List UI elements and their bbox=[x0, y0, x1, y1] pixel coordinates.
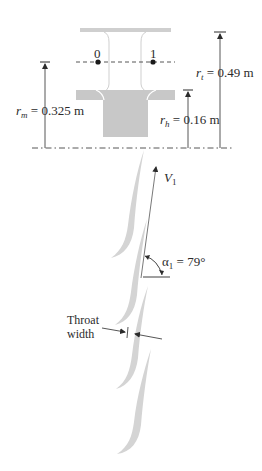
station-1-label: 1 bbox=[150, 47, 157, 60]
blade-1 bbox=[111, 150, 144, 258]
hub-flange bbox=[76, 90, 175, 100]
tip-radius-dimension bbox=[214, 32, 226, 148]
vane-passage bbox=[100, 32, 152, 95]
velocity-label: V1 bbox=[164, 171, 176, 187]
angle-label: α1 = 79° bbox=[162, 255, 205, 271]
mean-radius-label: rm = 0.325 m bbox=[16, 104, 84, 120]
station-0-label: 0 bbox=[94, 47, 101, 60]
tip-shroud bbox=[80, 28, 171, 32]
tip-radius-label: rt = 0.49 m bbox=[196, 66, 254, 82]
turbine-diagram: 0 1 rm = 0.325 m rt = 0.49 m rh = 0.16 m… bbox=[0, 0, 262, 471]
blade-cascade bbox=[111, 150, 151, 454]
throat-width-label: Throat width bbox=[67, 313, 99, 341]
hub-radius-label: rh = 0.16 m bbox=[160, 113, 220, 129]
throat-width-dimension bbox=[102, 327, 162, 339]
hub-block bbox=[103, 100, 148, 137]
